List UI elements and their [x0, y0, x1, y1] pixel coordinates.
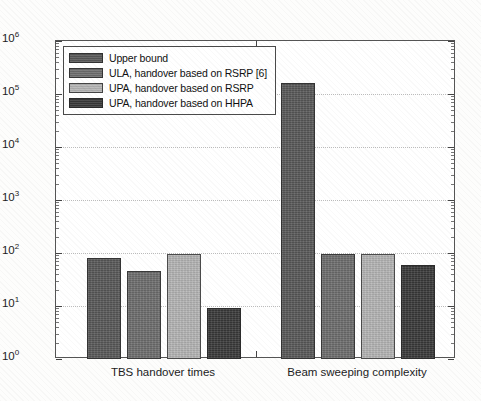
- legend-swatch-ula-rsrp: [69, 68, 103, 78]
- y-minor-tick-mark: [56, 212, 59, 213]
- bar: [167, 254, 201, 359]
- y-minor-tick-mark: [56, 131, 59, 132]
- y-minor-tick-mark: [451, 69, 454, 70]
- y-minor-tick-mark: [451, 221, 454, 222]
- legend-label: UPA, handover based on HHPA: [109, 97, 253, 109]
- y-minor-tick-mark: [56, 155, 59, 156]
- y-minor-tick-mark: [56, 311, 59, 312]
- legend: Upper bound ULA, handover based on RSRP …: [63, 46, 276, 115]
- y-tick-label: 103: [2, 192, 19, 204]
- y-minor-tick-mark: [451, 110, 454, 111]
- y-minor-tick-mark: [56, 281, 59, 282]
- y-minor-tick-mark: [56, 106, 59, 107]
- bar: [321, 254, 355, 359]
- y-minor-tick-mark: [451, 274, 454, 275]
- y-tick-mark: [56, 253, 62, 254]
- y-minor-tick-mark: [451, 281, 454, 282]
- y-minor-tick-mark: [56, 99, 59, 100]
- y-minor-tick-mark: [56, 261, 59, 262]
- y-tick-mark: [448, 359, 454, 360]
- bar: [361, 254, 395, 359]
- y-minor-tick-mark: [451, 255, 454, 256]
- y-minor-tick-mark: [56, 184, 59, 185]
- y-minor-tick-mark: [56, 152, 59, 153]
- y-tick-label: 100: [2, 351, 19, 363]
- y-minor-tick-mark: [56, 62, 59, 63]
- y-tick-label: 106: [2, 33, 19, 45]
- legend-item: ULA, handover based on RSRP [6]: [69, 65, 270, 80]
- y-minor-tick-mark: [451, 57, 454, 58]
- bar: [127, 271, 161, 359]
- y-minor-tick-mark: [451, 327, 454, 328]
- y-minor-tick-mark: [451, 184, 454, 185]
- y-minor-tick-mark: [56, 57, 59, 58]
- x-category-label: Beam sweeping complexity: [257, 366, 457, 378]
- y-minor-tick-mark: [451, 78, 454, 79]
- y-minor-tick-mark: [451, 261, 454, 262]
- x-category-label: TBS handover times: [63, 366, 263, 378]
- y-tick-mark: [448, 253, 454, 254]
- y-minor-tick-mark: [56, 269, 59, 270]
- y-minor-tick-mark: [56, 327, 59, 328]
- y-minor-tick-mark: [451, 308, 454, 309]
- y-minor-tick-mark: [56, 46, 59, 47]
- y-minor-tick-mark: [56, 115, 59, 116]
- y-tick-mark: [56, 94, 62, 95]
- y-minor-tick-mark: [56, 334, 59, 335]
- y-minor-tick-mark: [451, 131, 454, 132]
- gridline: [56, 200, 454, 201]
- y-minor-tick-mark: [451, 159, 454, 160]
- y-minor-tick-mark: [56, 343, 59, 344]
- y-minor-tick-mark: [56, 159, 59, 160]
- y-minor-tick-mark: [451, 53, 454, 54]
- y-minor-tick-mark: [56, 258, 59, 259]
- gridline: [56, 147, 454, 148]
- y-tick-mark: [56, 359, 62, 360]
- y-minor-tick-mark: [451, 102, 454, 103]
- y-minor-tick-mark: [451, 163, 454, 164]
- y-minor-tick-mark: [451, 228, 454, 229]
- bar: [281, 83, 315, 359]
- y-tick-mark: [448, 306, 454, 307]
- y-minor-tick-mark: [451, 311, 454, 312]
- y-minor-tick-mark: [56, 208, 59, 209]
- y-minor-tick-mark: [451, 334, 454, 335]
- y-tick-label: 104: [2, 139, 19, 151]
- y-tick-mark: [448, 41, 454, 42]
- bar: [401, 265, 435, 359]
- y-minor-tick-mark: [56, 78, 59, 79]
- y-minor-tick-mark: [451, 318, 454, 319]
- y-minor-tick-mark: [451, 122, 454, 123]
- legend-swatch-upa-hhpa: [69, 98, 103, 108]
- y-minor-tick-mark: [56, 308, 59, 309]
- y-minor-tick-mark: [451, 322, 454, 323]
- y-tick-label: 101: [2, 298, 19, 310]
- y-minor-tick-mark: [451, 168, 454, 169]
- y-minor-tick-mark: [451, 212, 454, 213]
- y-minor-tick-mark: [451, 208, 454, 209]
- y-minor-tick-mark: [451, 152, 454, 153]
- legend-item: UPA, handover based on RSRP: [69, 80, 270, 95]
- y-minor-tick-mark: [451, 202, 454, 203]
- y-tick-label: 105: [2, 86, 19, 98]
- x-tick-mark: [256, 351, 257, 357]
- legend-swatch-upa-rsrp: [69, 83, 103, 93]
- y-tick-label: 102: [2, 245, 19, 257]
- y-minor-tick-mark: [56, 318, 59, 319]
- y-minor-tick-mark: [56, 49, 59, 50]
- y-minor-tick-mark: [56, 228, 59, 229]
- y-minor-tick-mark: [451, 265, 454, 266]
- y-tick-mark: [56, 41, 62, 42]
- y-minor-tick-mark: [56, 216, 59, 217]
- y-minor-tick-mark: [56, 122, 59, 123]
- y-minor-tick-mark: [56, 221, 59, 222]
- y-minor-tick-mark: [56, 255, 59, 256]
- y-minor-tick-mark: [56, 265, 59, 266]
- legend-label: ULA, handover based on RSRP [6]: [109, 67, 267, 79]
- y-minor-tick-mark: [451, 155, 454, 156]
- y-minor-tick-mark: [451, 175, 454, 176]
- y-minor-tick-mark: [451, 96, 454, 97]
- y-tick-mark: [448, 200, 454, 201]
- figure-canvas: 106105104103102101100 TBS handover times…: [0, 0, 481, 401]
- y-minor-tick-mark: [56, 53, 59, 54]
